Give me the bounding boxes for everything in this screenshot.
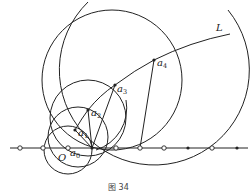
axis-marker-filled [235,146,238,149]
label-a2: a2 [91,107,101,120]
curve-label: L [215,22,223,33]
axis-marker-open [138,146,142,150]
label-a4: a4 [157,57,167,70]
point-a4 [152,58,155,61]
axis-marker-filled [90,146,93,149]
figure-caption: 图 34 [108,183,129,192]
label-a1: a1 [78,127,88,140]
axis-marker-filled [186,146,189,149]
axis-marker-open [18,146,22,150]
geometry-figure: L O a0 a1 a2 a3 a4 图 34 [0,0,252,192]
point-a2 [86,108,89,111]
origin-label: O [58,152,66,163]
circle-a3 [42,10,182,150]
label-a0: a0 [70,147,80,160]
segment-a4 [140,60,154,148]
axis-marker-open [162,146,166,150]
label-a3: a3 [117,83,127,96]
axis-marker-open [41,146,45,150]
axis-marker-open [210,146,214,150]
point-a1 [73,128,76,131]
axis-marker-open [114,146,118,150]
